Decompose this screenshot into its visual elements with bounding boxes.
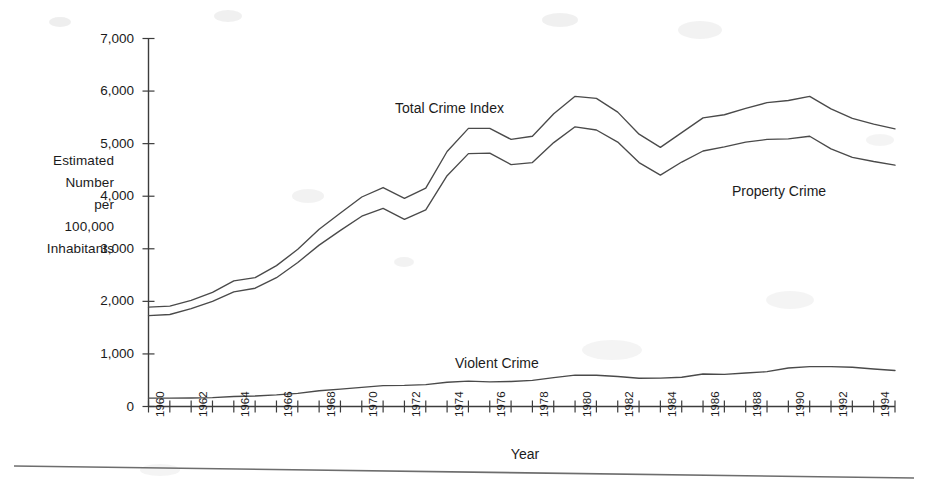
x-tick-label: 1964: [239, 391, 251, 417]
series-label: Violent Crime: [455, 355, 539, 371]
x-tick-label: 1974: [453, 391, 465, 417]
x-tick-label: 1978: [538, 391, 550, 417]
series-line-total-crime-index: [149, 96, 896, 307]
series-line-violent-crime: [149, 367, 896, 398]
plot-area: [0, 0, 928, 491]
x-axis-title: Year: [470, 446, 580, 462]
y-tick-label: 1,000: [62, 346, 134, 361]
series-label: Property Crime: [732, 183, 826, 199]
x-tick-label: 1976: [495, 391, 507, 417]
y-tick-label: 6,000: [62, 83, 134, 98]
series-line-property-crime: [149, 127, 896, 316]
x-tick-label: 1966: [282, 391, 294, 417]
x-tick-label: 1968: [325, 391, 337, 417]
y-tick-label: 0: [62, 399, 134, 414]
y-tick-label: 4,000: [62, 188, 134, 203]
x-tick-label: 1994: [879, 391, 891, 417]
y-tick-label: 5,000: [62, 136, 134, 151]
x-tick-label: 1970: [367, 391, 379, 417]
x-tick-label: 1988: [751, 391, 763, 417]
x-tick-label: 1986: [709, 391, 721, 417]
x-tick-label: 1980: [581, 391, 593, 417]
x-tick-label: 1984: [666, 391, 678, 417]
x-tick-label: 1962: [197, 391, 209, 417]
y-tick-label: 7,000: [62, 31, 134, 46]
series-label: Total Crime Index: [395, 100, 504, 116]
crime-rate-line-chart: Estimated Number per 100,000 Inhabitants…: [0, 0, 928, 491]
x-tick-label: 1992: [837, 391, 849, 417]
x-tick-label: 1990: [794, 391, 806, 417]
x-tick-label: 1972: [410, 391, 422, 417]
x-tick-label: 1982: [623, 391, 635, 417]
y-tick-label: 3,000: [62, 241, 134, 256]
y-tick-label: 2,000: [62, 293, 134, 308]
x-tick-label: 1960: [154, 391, 166, 417]
